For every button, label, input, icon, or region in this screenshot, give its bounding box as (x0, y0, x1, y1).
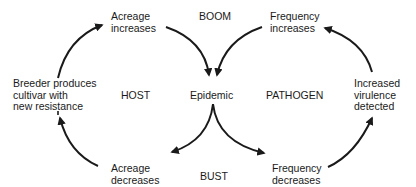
center-node-epidemic: Epidemic (190, 90, 233, 102)
node-acreage-increases: Acreage increases (111, 11, 156, 34)
phase-label-boom: BOOM (199, 11, 231, 23)
node-line: Frequency (270, 11, 320, 23)
node-line: increases (111, 23, 156, 35)
node-line: increases (270, 23, 320, 35)
arrow-epidemic-to-frequency-decreases (213, 104, 264, 153)
node-line: Frequency (272, 163, 322, 175)
arrow-acreage-increases-to-epidemic (166, 27, 209, 75)
node-line: Acreage (111, 11, 156, 23)
node-acreage-decreases: Acreage decreases (111, 163, 159, 186)
arrow-breeder-to-acreage-increases (58, 25, 102, 78)
node-line: Increased (354, 78, 400, 90)
node-line: Acreage (111, 163, 159, 175)
node-frequency-increases: Frequency increases (270, 11, 320, 34)
node-line: decreases (272, 175, 322, 187)
node-line: Breeder produces (13, 78, 96, 90)
arrow-frequency-decreases-to-virulence (328, 118, 372, 167)
arrow-acreage-decreases-to-breeder (60, 118, 98, 166)
arrow-frequency-increases-to-epidemic (217, 27, 262, 75)
phase-label-pathogen: PATHOGEN (266, 90, 323, 102)
node-line: new resistance (13, 101, 96, 113)
node-line: decreases (111, 175, 159, 187)
arrow-virulence-to-frequency-increases (325, 28, 372, 72)
node-line: detected (354, 101, 400, 113)
node-increased-virulence-detected: Increased virulence detected (354, 78, 400, 113)
phase-label-host: HOST (121, 90, 150, 102)
phase-label-bust: BUST (200, 171, 228, 183)
arrow-epidemic-to-acreage-decreases (172, 104, 213, 152)
node-frequency-decreases: Frequency decreases (272, 163, 322, 186)
node-breeder-produces-cultivar: Breeder produces cultivar with new resis… (13, 78, 96, 113)
